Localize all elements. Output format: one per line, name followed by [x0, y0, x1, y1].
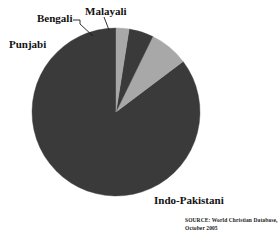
pie-slice-group	[32, 28, 200, 196]
source-note-line-2: October 2005	[185, 224, 277, 232]
pie-label-bengali: Bengali	[37, 12, 72, 24]
leader-line-bengali	[73, 20, 93, 36]
pie-label-punjabi: Punjabi	[9, 38, 46, 50]
leader-line-malayali	[104, 17, 109, 30]
pie-label-indo-pakistani: Indo-Pakistani	[154, 194, 224, 206]
pie-chart: Punjabi Bengali Malayali Indo-Pakistani …	[0, 0, 279, 249]
source-note-line-1: SOURCE: World Christian Database,	[185, 216, 277, 224]
source-note: SOURCE: World Christian Database, Octobe…	[185, 216, 277, 232]
pie-label-malayali: Malayali	[85, 5, 127, 17]
